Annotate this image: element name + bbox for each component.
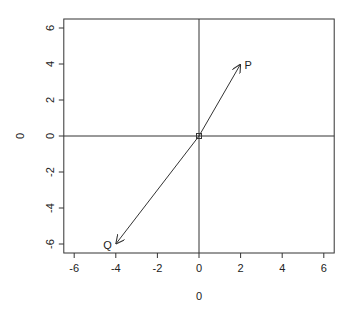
- vector-q: [116, 136, 199, 244]
- y-tick-label: 0: [44, 133, 56, 139]
- vector-p: [199, 64, 241, 136]
- x-tick-label: -4: [111, 262, 121, 274]
- x-axis-label: 0: [196, 290, 202, 302]
- y-tick-label: -4: [44, 203, 56, 213]
- x-tick-label: -2: [153, 262, 163, 274]
- y-axis-label: 0: [14, 133, 26, 139]
- vector-label-p: P: [245, 59, 252, 71]
- x-tick-label: 4: [279, 262, 285, 274]
- y-tick-label: 6: [44, 25, 56, 31]
- y-tick-label: -2: [44, 167, 56, 177]
- y-tick-label: 4: [44, 61, 56, 67]
- x-tick-label: 6: [321, 262, 327, 274]
- y-tick-label: -6: [44, 239, 56, 249]
- x-tick-label: -6: [69, 262, 79, 274]
- vector-plot: -6-4-20246-6-4-20246 PQ 0 0: [0, 0, 350, 320]
- x-tick-label: 2: [238, 262, 244, 274]
- y-tick-label: 2: [44, 97, 56, 103]
- vector-label-q: Q: [103, 239, 112, 251]
- x-tick-label: 0: [196, 262, 202, 274]
